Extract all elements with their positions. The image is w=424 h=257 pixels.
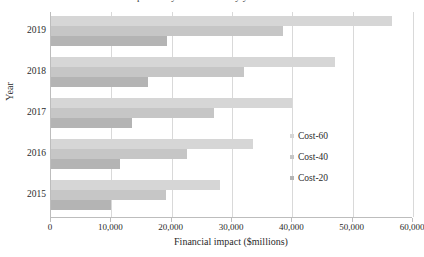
x-axis-title: Financial impact ($millions)	[50, 236, 412, 247]
bar	[51, 139, 253, 149]
bar-group	[51, 139, 412, 169]
y-axis-tick-label: 2017	[4, 107, 46, 117]
bar-group	[51, 98, 412, 128]
bar	[51, 108, 214, 118]
x-axis-tick-label: 30,000	[219, 222, 244, 232]
bar	[51, 67, 244, 77]
x-axis-tick-label: 10,000	[98, 222, 123, 232]
bar	[51, 118, 132, 128]
legend-swatch-icon	[290, 155, 294, 159]
legend-label: Cost-20	[298, 173, 328, 183]
legend-swatch-icon	[290, 176, 294, 180]
y-axis-tick-label: 2019	[4, 25, 46, 35]
bar	[51, 77, 148, 87]
x-axis-tick-label: 40,000	[279, 222, 304, 232]
x-axis-tick-label: 60,000	[400, 222, 424, 232]
legend-label: Cost-40	[298, 152, 328, 162]
y-axis-tick-label: 2018	[4, 66, 46, 76]
chart-legend: Cost-60Cost-40Cost-20	[290, 131, 328, 183]
y-axis-title: Year	[4, 72, 15, 112]
x-axis-tick-label: 50,000	[339, 222, 364, 232]
y-axis-tick-label: 2016	[4, 148, 46, 158]
bar	[51, 149, 187, 159]
plot-area	[50, 12, 412, 218]
gridline	[413, 12, 414, 217]
bar-group	[51, 180, 412, 210]
legend-item[interactable]: Cost-20	[290, 173, 328, 183]
bar	[51, 98, 292, 108]
x-axis-tick-label: 0	[48, 222, 53, 232]
bar-group	[51, 16, 412, 46]
bar	[51, 26, 283, 36]
x-axis-tick-label: 20,000	[158, 222, 183, 232]
legend-item[interactable]: Cost-60	[290, 131, 328, 141]
bar	[51, 180, 220, 190]
bar	[51, 159, 120, 169]
bar	[51, 16, 392, 26]
legend-swatch-icon	[290, 134, 294, 138]
bar	[51, 200, 111, 210]
bar	[51, 36, 167, 46]
legend-label: Cost-60	[298, 131, 328, 141]
bar	[51, 190, 166, 200]
legend-item[interactable]: Cost-40	[290, 152, 328, 162]
bar-group	[51, 57, 412, 87]
bar	[51, 57, 335, 67]
y-axis-tick-label: 2015	[4, 189, 46, 199]
chart-title: Financial impact of cyber incidents by y…	[0, 0, 418, 2]
